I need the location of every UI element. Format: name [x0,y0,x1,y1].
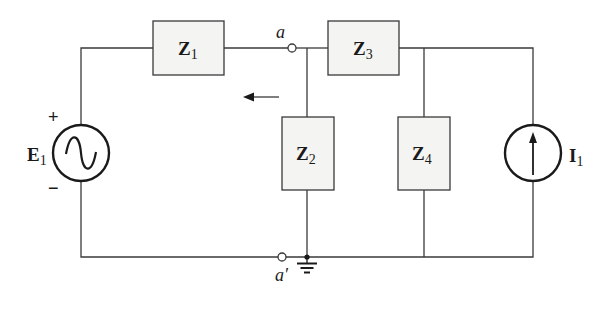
wire-z3-to-i1 [399,48,533,124]
terminal-a-prime-icon [278,253,286,261]
impedance-z3: Z3 [328,21,399,75]
voltage-source-e1: + − E1 [27,107,109,198]
node-a-prime: a′ [275,253,289,285]
minus-sign: − [48,178,59,198]
i1-label: I1 [569,145,583,169]
circuit-diagram: Z1 Z3 Z2 Z4 + − E1 I1 a a′ [0,0,597,316]
wire-e1-to-a-prime [81,181,278,257]
wire-e1-to-z1 [81,48,153,125]
terminal-a-icon [288,44,296,52]
plus-sign: + [48,107,59,127]
circuit-svg: Z1 Z3 Z2 Z4 + − E1 I1 a a′ [0,0,597,316]
e1-label: E1 [27,144,47,168]
impedance-z2: Z2 [282,117,334,190]
wire-bottom-right [286,182,533,257]
impedance-z1: Z1 [153,21,224,75]
arrow-left-icon [243,93,279,102]
impedance-z4: Z4 [398,117,450,190]
node-a-label: a [276,22,285,42]
current-source-i1: I1 [505,125,583,181]
node-a-prime-label: a′ [275,265,289,285]
ground-icon [297,257,317,273]
